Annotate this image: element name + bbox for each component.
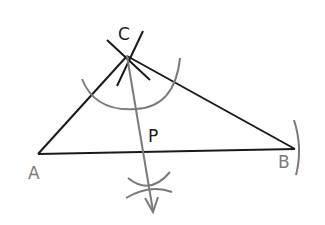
arc-at-b bbox=[294, 120, 299, 175]
label-b: B bbox=[278, 152, 290, 172]
arc-below-left bbox=[126, 189, 172, 198]
side-ac bbox=[38, 56, 127, 154]
label-c: C bbox=[118, 24, 130, 44]
side-ab bbox=[38, 149, 295, 154]
label-a: A bbox=[28, 163, 40, 183]
label-p: P bbox=[148, 126, 158, 146]
geometry-diagram: C A B P bbox=[0, 0, 325, 225]
